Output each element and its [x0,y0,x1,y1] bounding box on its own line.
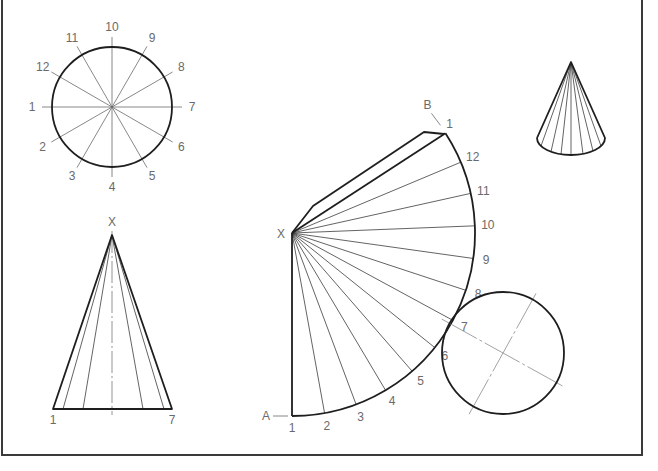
development-point-label: 9 [483,253,490,267]
front-view-cone: X17 [50,215,176,427]
base-point-label: 7 [169,413,176,427]
pictorial-element-line [551,62,571,152]
development-point-label: 10 [481,218,495,232]
development-pattern: 1234567891011121XAB [262,98,495,435]
pictorial-element-line [571,62,593,151]
plan-point-label: 10 [105,20,119,34]
plan-point-label: 7 [189,100,196,114]
base-point-label: 1 [50,413,57,427]
plan-point-label: 5 [149,169,156,183]
cone-outline [53,235,172,409]
development-element-line [292,162,461,233]
development-element-line [292,233,453,320]
plan-view-circle: 123456789101112 [29,20,196,194]
plan-point-label: 1 [29,100,36,114]
base-circle [442,292,564,414]
development-point-label: 4 [389,394,396,408]
development-point-label: 1 [289,421,296,435]
plan-point-label: 2 [39,140,46,154]
pictorial-element-line [571,62,601,146]
development-point-label: 2 [324,419,331,433]
base-axis-line [469,292,537,414]
point-b-label: B [423,98,431,112]
development-element-line [292,233,466,290]
plan-point-label: 6 [178,140,185,154]
development-point-label: 1 [446,117,453,131]
plan-point-label: 8 [178,60,185,74]
seam-edge-b [292,133,445,233]
development-point-label: 12 [466,150,480,164]
pictorial-cone [537,62,605,155]
plan-point-label: 4 [109,180,116,194]
point-b-leader [431,113,440,125]
plan-point-label: 11 [66,31,79,45]
development-apex-label: X [277,227,285,241]
development-point-label: 11 [477,184,490,198]
cone-development-diagram: 123456789101112 X17 1234567891011121XAB [0,0,658,471]
development-point-label: 3 [357,410,364,424]
development-point-label: 5 [417,374,424,388]
plan-point-label: 9 [149,31,156,45]
point-a-label: A [262,409,270,423]
frame-border [2,0,642,455]
plan-point-label: 3 [69,169,76,183]
development-arc [292,133,475,416]
drawing-frame [2,0,642,455]
development-element-line [292,233,412,371]
apex-label: X [108,215,116,229]
plan-point-label: 12 [36,60,50,74]
